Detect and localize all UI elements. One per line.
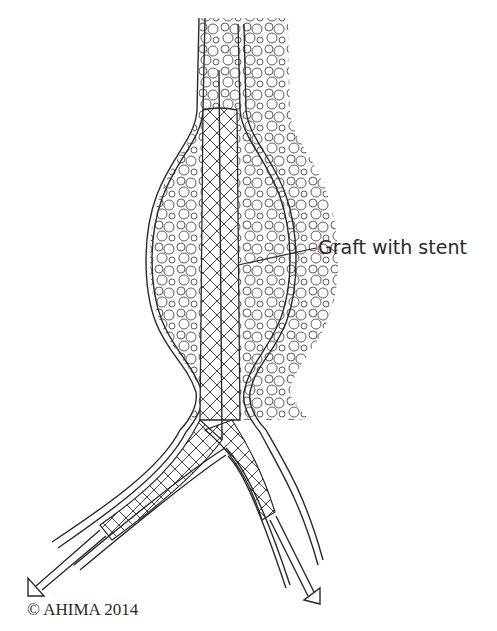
aneurysm-sac	[146, 18, 338, 432]
copyright-notice: © AHIMA 2014	[27, 600, 138, 620]
stent-graft-diagram	[0, 0, 497, 631]
left-iliac-limb	[28, 420, 226, 596]
graft-with-stent-label: Graft with stent	[318, 236, 467, 258]
right-iliac-limb	[205, 420, 323, 604]
graft-body	[200, 70, 240, 440]
